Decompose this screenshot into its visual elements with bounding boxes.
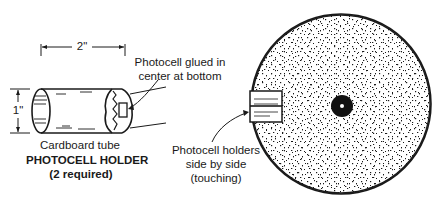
photocell-holder-subtitle: (2 required) (26, 168, 136, 181)
photocell-callout-line1: Photocell glued in (130, 56, 230, 69)
dimension-width-label: 2" (73, 40, 91, 53)
cardboard-tube-label: Cardboard tube (40, 139, 120, 152)
holders-callout-line1: Photocell holders (168, 144, 264, 157)
holders-callout-line2: side by side (168, 158, 264, 171)
photocell-callout-line2: center at bottom (130, 70, 230, 83)
photocell-holder-title: PHOTOCELL HOLDER (26, 154, 136, 167)
dimension-height-label: 1" (10, 104, 26, 117)
holders-callout-line3: (touching) (168, 172, 264, 185)
photocell-holder-diagram: 2" 1" Photocell glued in center at botto… (0, 0, 445, 209)
